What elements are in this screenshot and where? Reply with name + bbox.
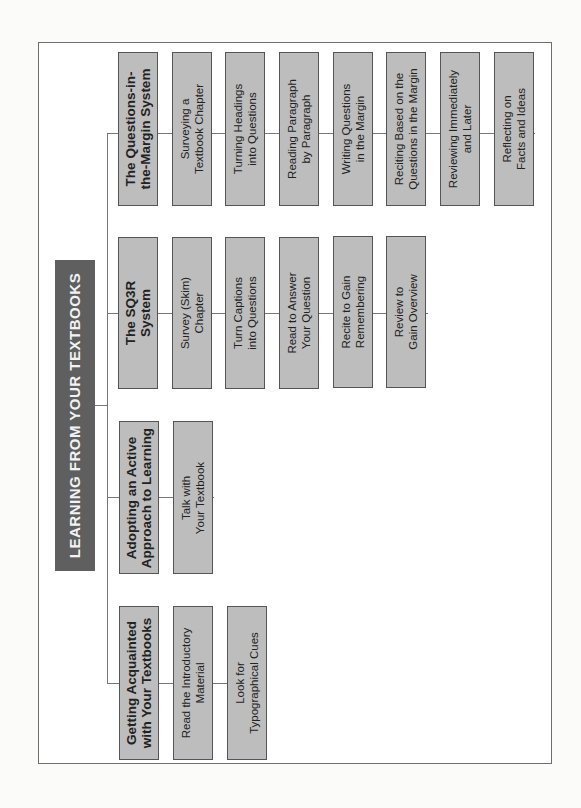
step-read-introductory: Read the Introductory Material (173, 606, 213, 760)
step-talk-with-textbook: Talk with Your Textbook (173, 421, 213, 574)
step-reflecting: Reflecting on Facts and Ideas (494, 52, 534, 206)
step-reciting-questions: Reciting Based on the Questions in the M… (386, 52, 426, 206)
step-survey-skim: Survey (Skim) Chapter (172, 237, 212, 389)
branch-active-approach-heading: Adopting an Active Approach to Learning (119, 421, 159, 574)
step-surveying-chapter: Surveying a Textbook Chapter (172, 52, 212, 206)
step-read-to-answer: Read to Answer Your Question (279, 237, 319, 389)
step-review-overview: Review to Gain Overview (386, 236, 426, 388)
step-turning-headings: Turning Headings into Questions (225, 52, 265, 206)
step-typographical-cues: Look for Typographical Cues (227, 606, 267, 760)
root-title-box: LEARNING FROM YOUR TEXTBOOKS (55, 260, 95, 571)
branch-questions-in-margin-heading: The Questions-in- the-Margin System (118, 52, 158, 206)
branch-sq3r-heading: The SQ3R System (118, 237, 158, 389)
root-title: LEARNING FROM YOUR TEXTBOOKS (67, 273, 84, 558)
step-reading-paragraph: Reading Paragraph by Paragraph (279, 52, 319, 206)
title-connector (95, 405, 107, 406)
step-recite-to-gain: Recite to Gain Remembering (333, 236, 373, 388)
step-turn-captions: Turn Captions into Questions (225, 237, 265, 389)
step-writing-questions: Writing Questions in the Margin (333, 52, 373, 206)
trunk-line (107, 133, 108, 684)
branch-getting-acquainted-heading: Getting Acquainted with Your Textbooks (119, 606, 159, 760)
step-reviewing: Reviewing Immediately and Later (440, 52, 480, 206)
